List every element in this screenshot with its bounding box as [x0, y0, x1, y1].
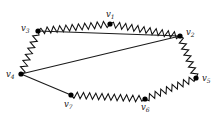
vertex-label-v6: v6 — [141, 103, 150, 113]
vertex-label-subscript-v4: 4 — [11, 73, 15, 80]
edge-v4-v7 — [21, 74, 71, 95]
edges-layer — [20, 21, 197, 101]
vertex-label-subscript-v2: 2 — [191, 31, 195, 38]
vertex-label-v2: v2 — [186, 28, 195, 38]
vertex-dot-v2 — [177, 33, 182, 38]
vertex-label-subscript-v7: 7 — [69, 103, 73, 110]
vertex-dot-v1 — [107, 21, 112, 26]
vertex-label-subscript-v6: 6 — [146, 106, 150, 113]
vertex-label-v5: v5 — [202, 74, 211, 84]
vertex-dot-v4 — [18, 71, 23, 76]
vertex-label-v7: v7 — [64, 100, 73, 110]
edge-v3-v2 — [38, 31, 180, 36]
vertex-label-v4: v4 — [6, 70, 15, 80]
graph-figure: v1v2v3v4v5v6v7 — [0, 0, 222, 121]
edge-v3-v4 — [20, 31, 39, 74]
vertex-dot-v5 — [193, 75, 198, 80]
vertex-label-subscript-v5: 5 — [207, 77, 211, 84]
vertex-label-v3: v3 — [21, 24, 30, 34]
edge-v2-v5 — [179, 36, 198, 78]
edge-v5-v6 — [145, 77, 196, 100]
edge-v6-v7 — [71, 92, 145, 102]
vertex-dot-v7 — [68, 92, 73, 97]
vertex-dot-v3 — [35, 28, 40, 33]
vertex-label-v1: v1 — [106, 10, 115, 20]
vertex-label-subscript-v3: 3 — [26, 27, 30, 34]
edge-v4-v2 — [21, 36, 180, 74]
vertex-label-subscript-v1: 1 — [111, 13, 115, 20]
vertex-dot-v6 — [142, 96, 147, 101]
